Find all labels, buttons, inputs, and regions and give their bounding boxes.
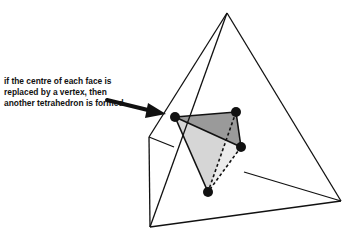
tetrahedron-figure: [0, 0, 354, 240]
diagram: if the centre of each face is replaced b…: [0, 0, 354, 240]
pointer-arrow-icon: [107, 100, 166, 118]
